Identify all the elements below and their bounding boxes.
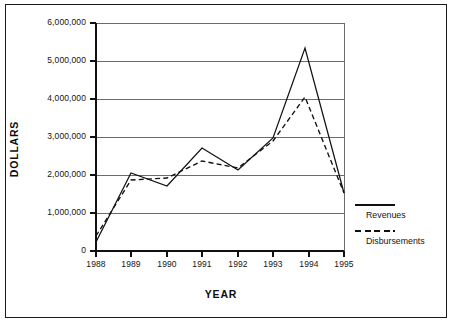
y-tick-label-1000000: 1,000,000 [28, 208, 86, 217]
x-tick-marks [96, 251, 344, 257]
legend-label-revenues: Revenues [366, 210, 406, 220]
x-axis-title: YEAR [96, 288, 346, 300]
y-tick-label-4000000: 4,000,000 [28, 94, 86, 103]
x-tick-label-1993: 1993 [253, 260, 293, 269]
y-tick-label-0: 0 [28, 246, 86, 255]
gridlines [96, 23, 344, 213]
y-tick-label-5000000: 5,000,000 [28, 56, 86, 65]
y-tick-label-2000000: 2,000,000 [28, 170, 86, 179]
chart-figure: 6,000,000 5,000,000 4,000,000 3,000,000 … [0, 0, 452, 323]
legend-label-disbursements: Disbursements [366, 236, 425, 246]
x-tick-label-1989: 1989 [111, 260, 151, 269]
x-tick-label-1988: 1988 [76, 260, 116, 269]
y-tick-label-6000000: 6,000,000 [28, 18, 86, 27]
y-tick-marks [90, 23, 96, 251]
x-tick-label-1995: 1995 [324, 260, 364, 269]
x-tick-label-1990: 1990 [147, 260, 187, 269]
x-tick-label-1994: 1994 [289, 260, 329, 269]
chart-plot-area: 6,000,000 5,000,000 4,000,000 3,000,000 … [0, 0, 452, 323]
x-tick-label-1992: 1992 [218, 260, 258, 269]
y-tick-label-3000000: 3,000,000 [28, 132, 86, 141]
series-line-disbursements [96, 97, 344, 236]
x-tick-label-1991: 1991 [182, 260, 222, 269]
chart-svg [0, 0, 452, 323]
y-axis-title: DOLLARS [8, 104, 20, 194]
